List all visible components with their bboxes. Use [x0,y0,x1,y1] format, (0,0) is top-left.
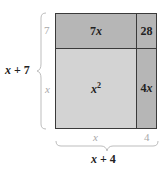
left-dim-bottom: x [45,83,50,95]
region-x-squared-label: x2 [91,81,101,97]
left-total-rest: + 7 [11,63,30,77]
region-7x-label: 7x [90,24,102,39]
left-total-label: x + 7 [5,63,30,78]
bottom-dim-right: 4 [144,131,150,143]
bottom-dim-left: x [93,131,98,143]
area-rectangle: 7x 28 x2 4x [55,13,157,129]
region-4x-label: 4x [141,81,153,96]
region-top-right: 28 [136,13,157,49]
region-28-label: 28 [141,24,153,39]
region-top-left: 7x [55,13,137,49]
left-dim-top: 7 [44,24,50,36]
bottom-total-label: x + 4 [91,152,116,167]
region-bottom-right: 4x [136,48,157,129]
region-bottom-left: x2 [55,48,137,129]
bottom-total-rest: + 4 [97,152,116,166]
